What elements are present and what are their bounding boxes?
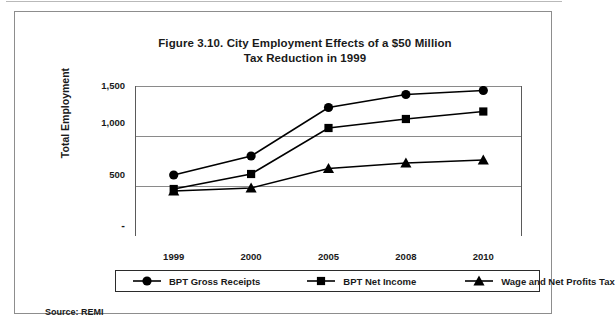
x-axis-tick-label-1999: 1999 <box>144 251 204 262</box>
series-line-1 <box>174 112 484 190</box>
chart-title-line-2: Tax Reduction in 1999 <box>115 51 495 66</box>
legend-label-2: Wage and Net Profits Tax <box>501 276 615 287</box>
data-point-0-0 <box>169 170 178 179</box>
y-axis-title: Total Employment <box>59 48 71 178</box>
legend-marker-circle-icon <box>132 274 162 288</box>
legend-item-0[interactable]: BPT Gross Receipts <box>132 274 260 288</box>
y-axis-tick-label-500: 500 <box>81 170 125 180</box>
source-note: Source: REMI <box>45 307 104 317</box>
y-axis-tick-label-1500: 1,500 <box>81 81 125 91</box>
legend-label-0: BPT Gross Receipts <box>169 276 260 287</box>
x-axis-tick-label-2008: 2008 <box>376 251 436 262</box>
legend-marker-triangle-icon <box>464 274 494 288</box>
plot-area <box>135 86 522 236</box>
figure-frame: Figure 3.10. City Employment Effects of … <box>14 11 552 314</box>
line-chart-svg <box>135 86 522 236</box>
x-axis-tick-label-2005: 2005 <box>299 251 359 262</box>
legend-item-1[interactable]: BPT Net Income <box>306 274 416 288</box>
chart-legend: BPT Gross ReceiptsBPT Net IncomeWage and… <box>115 270 540 292</box>
data-point-0-3 <box>401 90 410 99</box>
chart-title: Figure 3.10. City Employment Effects of … <box>115 36 495 66</box>
x-axis-tick-label-2010: 2010 <box>453 251 513 262</box>
data-point-1-1 <box>247 170 255 178</box>
x-axis-tick-label-2000: 2000 <box>221 251 281 262</box>
legend-marker-square-icon <box>306 274 336 288</box>
legend-label-1: BPT Net Income <box>343 276 416 287</box>
data-point-1-2 <box>324 124 332 132</box>
y-axis-tick-label-1000: 1,000 <box>81 118 125 128</box>
y-axis-tick-label-0: - <box>81 220 125 230</box>
data-point-1-4 <box>479 107 487 115</box>
data-point-1-3 <box>402 115 410 123</box>
data-point-0-2 <box>324 103 333 112</box>
page-top-rule <box>6 1 562 2</box>
data-point-0-4 <box>479 86 488 95</box>
legend-item-2[interactable]: Wage and Net Profits Tax <box>464 274 615 288</box>
chart-title-line-1: Figure 3.10. City Employment Effects of … <box>158 37 452 49</box>
data-point-0-1 <box>247 151 256 160</box>
